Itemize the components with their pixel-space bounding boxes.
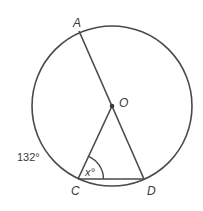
angle-label-x: x° (84, 166, 96, 178)
center-point (110, 104, 115, 109)
arc-label-132: 132° (17, 151, 40, 163)
label-C: C (71, 184, 80, 198)
label-O: O (119, 96, 128, 110)
geometry-diagram: A O C D x° 132° (0, 0, 203, 211)
segment-OC (78, 106, 112, 179)
label-D: D (147, 184, 156, 198)
label-A: A (72, 16, 81, 30)
